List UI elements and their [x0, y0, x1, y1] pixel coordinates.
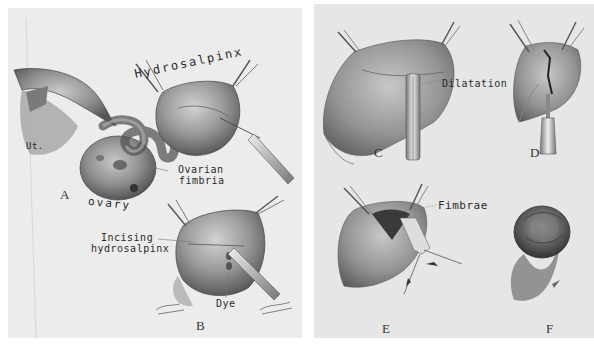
label-ovarian-fimbria-1: Ovarian — [178, 165, 224, 175]
label-incising-1: Incising — [101, 233, 153, 243]
label-dilatation: Dilatation — [442, 79, 507, 89]
figure-label-b: B — [196, 319, 205, 332]
anatomy-illustration-c-f — [314, 4, 594, 338]
label-uterus: Ut. — [26, 142, 44, 151]
illustration-panel-left: Ut. Hydrosalpinx Ovarian fimbria A ovary… — [8, 8, 302, 338]
label-incising-2: hydrosalpinx — [91, 244, 169, 254]
label-fimbrae: Fimbrae — [438, 200, 488, 211]
figure-label-e: E — [382, 322, 390, 335]
anatomy-illustration-a-b — [8, 8, 302, 338]
label-ovarian-fimbria-2: fimbria — [179, 176, 225, 186]
figure-label-d: D — [530, 146, 539, 159]
label-dye: Dye — [216, 299, 236, 309]
figure-label-a: A — [60, 188, 69, 201]
illustration-panel-right: Dilatation C D Fimbrae E F — [314, 4, 594, 338]
figure-label-f: F — [546, 322, 553, 335]
figure-label-c: C — [374, 146, 383, 159]
